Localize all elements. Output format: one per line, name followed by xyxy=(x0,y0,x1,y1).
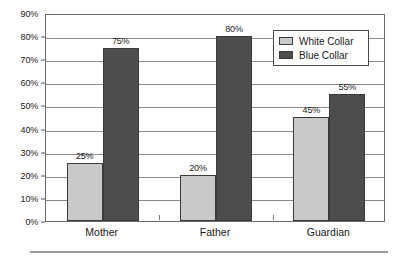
category-separator-tick xyxy=(159,215,160,220)
y-axis-tick-label: 60% xyxy=(21,79,38,88)
chart-legend: White Collar Blue Collar xyxy=(273,30,369,66)
y-axis-tick-label: 80% xyxy=(21,33,38,42)
bar-father-white-collar xyxy=(180,175,216,221)
category-separator-tick xyxy=(273,215,274,220)
y-axis-tick-label: 10% xyxy=(21,194,38,203)
bar-father-blue-collar xyxy=(216,36,252,221)
bar-guardian-white-collar xyxy=(293,117,329,221)
x-axis-label-mother: Mother xyxy=(85,226,118,238)
bar-value-label: 25% xyxy=(61,152,109,161)
legend-swatch-blue-collar-icon xyxy=(279,51,293,59)
y-axis-tick-label: 90% xyxy=(21,10,38,19)
legend-swatch-white-collar-icon xyxy=(279,37,293,45)
x-axis-label-guardian: Guardian xyxy=(307,226,350,238)
y-axis: 0%10%20%30%40%50%60%70%80%90% xyxy=(0,14,45,222)
bar-guardian-blue-collar xyxy=(329,94,365,221)
bar-mother-blue-collar xyxy=(103,48,139,221)
grouped-bar-chart: 0%10%20%30%40%50%60%70%80%90% 25%75%20%8… xyxy=(0,0,404,260)
bar-value-label: 20% xyxy=(174,164,222,173)
legend-item-blue-collar: Blue Collar xyxy=(279,48,363,62)
footer-rule xyxy=(30,251,388,253)
y-axis-tick-label: 70% xyxy=(21,56,38,65)
bar-value-label: 45% xyxy=(287,106,335,115)
bar-value-label: 55% xyxy=(323,83,371,92)
y-axis-tick-label: 20% xyxy=(21,171,38,180)
y-axis-tick-label: 30% xyxy=(21,148,38,157)
legend-label-white-collar: White Collar xyxy=(299,36,353,47)
x-axis-category-labels: MotherFatherGuardian xyxy=(45,226,385,242)
bar-value-label: 75% xyxy=(97,37,145,46)
legend-item-white-collar: White Collar xyxy=(279,34,363,48)
bar-value-label: 80% xyxy=(210,25,258,34)
legend-label-blue-collar: Blue Collar xyxy=(299,50,348,61)
y-axis-tick-label: 50% xyxy=(21,102,38,111)
bar-mother-white-collar xyxy=(67,163,103,221)
x-axis-label-father: Father xyxy=(200,226,230,238)
y-axis-tick-label: 40% xyxy=(21,125,38,134)
y-axis-tick-label: 0% xyxy=(25,218,38,227)
